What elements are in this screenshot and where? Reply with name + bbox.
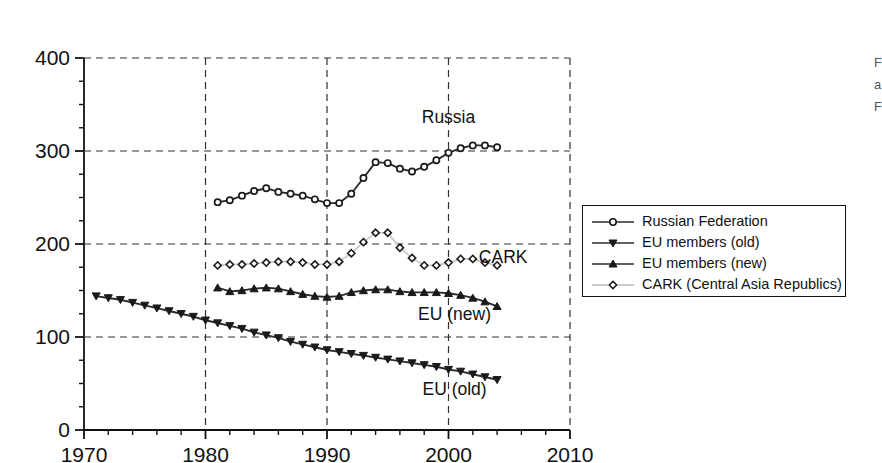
data-point (336, 200, 342, 206)
data-point (226, 261, 233, 268)
legend-item: EU members (old) (583, 232, 845, 253)
data-point (469, 255, 476, 262)
data-point (251, 260, 258, 267)
legend-label: CARK (Central Asia Republics) (642, 277, 842, 292)
data-point (482, 142, 488, 148)
data-point (263, 259, 270, 266)
legend-marker-diamond-open (590, 278, 636, 292)
data-point (227, 197, 233, 203)
legend-label: EU members (new) (642, 256, 767, 271)
data-point (445, 259, 452, 266)
data-point (251, 188, 257, 194)
y-axis-tick-label: 400 (35, 46, 70, 69)
series-line (218, 233, 497, 266)
data-point (324, 200, 330, 206)
data-point (409, 168, 415, 174)
edge-fragment-line: F (874, 96, 882, 112)
series-annotation: Russia (422, 107, 476, 127)
chart-legend: Russian Federation EU members (old) EU m… (582, 205, 846, 297)
x-axis-tick-label: 1980 (182, 443, 229, 463)
series-annotation: EU (old) (422, 379, 486, 399)
series-annotation: EU (new) (418, 304, 491, 324)
data-point (360, 175, 366, 181)
data-point (311, 261, 318, 268)
data-point (397, 166, 403, 172)
edge-fragment-line: a (874, 74, 882, 96)
data-point (458, 145, 464, 151)
data-point (433, 262, 440, 269)
data-point (457, 255, 464, 262)
x-axis-tick-label: 2000 (425, 443, 472, 463)
legend-label: Russian Federation (642, 214, 768, 229)
y-axis-tick-label: 300 (35, 139, 70, 162)
data-point (239, 193, 245, 199)
legend-marker-triangle-down (590, 236, 636, 250)
data-point (312, 196, 318, 202)
legend-item: EU members (new) (583, 253, 845, 274)
data-point (348, 191, 354, 197)
legend-item: CARK (Central Asia Republics) (583, 274, 845, 295)
data-point (299, 259, 306, 266)
data-point (287, 258, 294, 265)
y-axis-tick-label: 0 (58, 418, 70, 441)
data-point (470, 142, 476, 148)
legend-label: EU members (old) (642, 235, 760, 250)
y-axis-tick-label: 100 (35, 325, 70, 348)
x-axis-tick-label: 2010 (547, 443, 594, 463)
data-point (214, 284, 222, 291)
y-axis-tick-label: 200 (35, 232, 70, 255)
series-line (218, 145, 497, 203)
data-point (494, 144, 500, 150)
data-point (300, 193, 306, 199)
page-edge-text-fragment: F a F (874, 52, 882, 112)
x-axis-tick-label: 1970 (61, 443, 108, 463)
data-point (433, 157, 439, 163)
figure-root: 010020030040019701980199020002010RussiaC… (0, 0, 882, 463)
edge-fragment-line: F (874, 52, 882, 74)
data-point (275, 189, 281, 195)
legend-marker-circle-open (590, 215, 636, 229)
data-point (238, 261, 245, 268)
data-point (214, 262, 221, 269)
data-point (263, 185, 269, 191)
data-point (323, 261, 330, 268)
data-point (215, 199, 221, 205)
data-point (287, 191, 293, 197)
data-point (385, 160, 391, 166)
data-point (275, 258, 282, 265)
data-point (421, 164, 427, 170)
x-axis-tick-label: 1990 (304, 443, 351, 463)
legend-item: Russian Federation (583, 211, 845, 232)
legend-marker-triangle-up (590, 257, 636, 271)
data-point (445, 150, 451, 156)
data-point (373, 159, 379, 165)
series-annotation: CARK (479, 247, 528, 267)
